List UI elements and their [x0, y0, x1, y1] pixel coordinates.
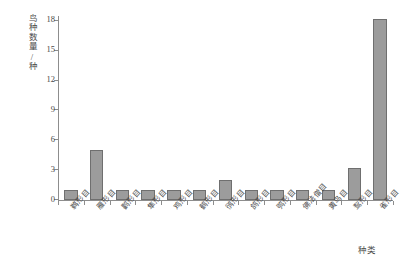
y-tick-label: 15	[37, 44, 55, 54]
plot-area: 0369121518	[58, 16, 393, 201]
y-tick-label: 9	[37, 104, 55, 114]
x-tick-mark	[393, 201, 394, 205]
x-tick-mark	[367, 201, 368, 205]
x-tick-mark	[264, 201, 265, 205]
x-tick-mark	[135, 201, 136, 205]
y-tick: 12	[58, 80, 59, 81]
y-tick-label: 18	[37, 14, 55, 24]
y-tick: 15	[58, 50, 59, 51]
y-tick: 18	[58, 20, 59, 21]
y-tick: 0	[58, 199, 59, 200]
x-tick-mark	[58, 201, 59, 205]
y-tick-label: 12	[37, 74, 55, 84]
y-tick-label: 3	[37, 164, 55, 174]
bar-chart: 鸟种数量/种 0369121518 鹈形目雁形目鹳形目隼形目鸡形目鹤形目鸻形目鸽…	[0, 0, 406, 270]
x-tick-mark	[161, 201, 162, 205]
y-axis-title: 鸟种数量/种	[22, 14, 36, 71]
y-tick: 6	[58, 139, 59, 140]
y-tick: 3	[58, 169, 59, 170]
bar	[373, 19, 386, 200]
y-tick-label: 0	[37, 194, 55, 204]
y-tick: 9	[58, 109, 59, 110]
y-tick-label: 6	[37, 134, 55, 144]
x-axis-title: 种类	[358, 243, 377, 255]
x-tick-mark	[187, 201, 188, 205]
x-tick-mark	[290, 201, 291, 205]
